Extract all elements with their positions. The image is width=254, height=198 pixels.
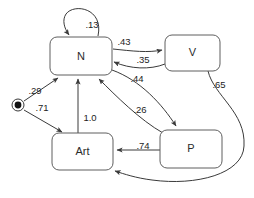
- start-state-dot: [15, 102, 22, 109]
- edge-N-to-V: [113, 49, 162, 52]
- state-transition-diagram: N V Art P .29 .71 .13 .43 .35 .44 .26 1.…: [0, 0, 254, 198]
- edge-label-N-to-P: .44: [130, 73, 143, 84]
- edge-label-V-to-N: .35: [136, 54, 149, 65]
- edge-start-to-Art: [24, 110, 62, 132]
- edge-P-to-N: [99, 79, 163, 133]
- diagram-canvas: N V Art P .29 .71 .13 .43 .35 .44 .26 1.…: [0, 0, 254, 198]
- edge-label-P-to-N: .26: [133, 104, 146, 115]
- edge-label-Art-to-N: 1.0: [83, 112, 96, 123]
- node-P-label: P: [187, 142, 194, 154]
- node-N[interactable]: N: [50, 37, 112, 75]
- edge-N-to-P: [112, 70, 176, 126]
- edge-label-P-to-Art: .74: [136, 140, 149, 151]
- node-Art[interactable]: Art: [52, 133, 113, 170]
- edge-label-N-self: .13: [85, 19, 98, 30]
- node-N-label: N: [77, 50, 85, 62]
- node-P[interactable]: P: [160, 130, 222, 168]
- node-Art-label: Art: [75, 145, 89, 157]
- edge-label-start-to-Art: .71: [35, 102, 48, 113]
- node-V[interactable]: V: [165, 35, 220, 71]
- node-V-label: V: [189, 46, 197, 58]
- edge-label-V-to-Art: .65: [212, 79, 225, 90]
- edge-label-N-to-V: .43: [117, 36, 130, 47]
- edge-label-start-to-N: .29: [28, 85, 41, 96]
